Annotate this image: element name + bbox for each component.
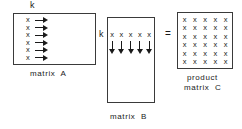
matrix-c-cell: x — [212, 58, 219, 65]
matrix-c-row: x x x x x — [181, 50, 229, 57]
matrix-c-caption-line2: matrix C — [184, 84, 221, 92]
matrix-a-dimension-label: k — [30, 1, 35, 10]
matrix-b-arrows — [109, 41, 152, 55]
matrix-b-cell: x — [146, 30, 152, 40]
matrix-c-caption-line1: product — [187, 74, 218, 82]
matrix-c-cell: x — [191, 58, 198, 65]
matrix-c-cell: x — [181, 50, 188, 57]
matrix-a-row: x — [26, 40, 66, 46]
matrix-c-cell: x — [212, 24, 219, 31]
matrix-a-row: x — [26, 47, 66, 53]
matrix-c-cell: x — [212, 50, 219, 57]
matrix-b-cells: x x x x x — [109, 30, 152, 40]
arrow-down-icon — [137, 41, 143, 55]
matrix-c-cell: x — [202, 16, 209, 23]
matrix-c-cell: x — [212, 16, 219, 23]
arrow-right-icon — [35, 47, 49, 53]
matrix-b-cell: x — [109, 30, 115, 40]
matrix-c-cell: x — [222, 41, 229, 48]
matrix-c-cell: x — [181, 16, 188, 23]
matrix-b-dimension-label: k — [99, 30, 104, 39]
matrix-c-row: x x x x x — [181, 33, 229, 40]
matrix-b-caption: matrix B — [110, 113, 147, 121]
matrix-a-caption: matrix A — [30, 70, 67, 78]
matrix-a-rows: x x x x x x — [26, 17, 66, 61]
arrow-right-icon — [35, 55, 49, 61]
arrow-right-icon — [35, 17, 49, 23]
matrix-c-cell: x — [212, 33, 219, 40]
matrix-c-cell: x — [191, 24, 198, 31]
matrix-a-row: x — [26, 55, 66, 61]
matrix-c-row: x x x x x — [181, 24, 229, 31]
matrix-a-row: x — [26, 25, 66, 31]
matrix-c-row: x x x x x — [181, 58, 229, 65]
matrix-c-grid: x x x x x x x x x x x x x x x x x x x x — [181, 16, 229, 65]
matrix-c-cell: x — [222, 16, 229, 23]
arrow-down-icon — [118, 41, 124, 55]
matrix-c-cell: x — [181, 58, 188, 65]
arrow-right-icon — [35, 40, 49, 46]
matrix-c-cell: x — [222, 58, 229, 65]
matrix-c-cell: x — [202, 58, 209, 65]
matrix-a-row: x — [26, 17, 66, 23]
matrix-c-cell: x — [212, 41, 219, 48]
matrix-c-cell: x — [191, 50, 198, 57]
matrix-c-row: x x x x x — [181, 41, 229, 48]
diagram-canvas: k x x x x x x matrix A k x — [0, 0, 242, 129]
equals-operator: = — [165, 29, 171, 40]
matrix-c-cell: x — [181, 41, 188, 48]
matrix-c-cell: x — [191, 33, 198, 40]
matrix-c-cell: x — [191, 16, 198, 23]
matrix-c-cell: x — [202, 33, 209, 40]
matrix-c-cell: x — [181, 24, 188, 31]
matrix-a-row: x — [26, 32, 66, 38]
arrow-right-icon — [35, 32, 49, 38]
matrix-c-cell: x — [202, 50, 209, 57]
matrix-c-cell: x — [222, 24, 229, 31]
matrix-b-cell: x — [137, 30, 143, 40]
matrix-b-cell: x — [128, 30, 134, 40]
arrow-right-icon — [35, 25, 49, 31]
matrix-c-cell: x — [191, 41, 198, 48]
matrix-b-cell: x — [118, 30, 124, 40]
matrix-c-cell: x — [222, 33, 229, 40]
matrix-c-cell: x — [202, 24, 209, 31]
matrix-a-cell: x — [26, 55, 33, 61]
matrix-c-cell: x — [222, 50, 229, 57]
arrow-down-icon — [109, 41, 115, 55]
matrix-c-cell: x — [181, 33, 188, 40]
arrow-down-icon — [128, 41, 134, 55]
matrix-c-cell: x — [202, 41, 209, 48]
arrow-down-icon — [146, 41, 152, 55]
matrix-c-row: x x x x x — [181, 16, 229, 23]
